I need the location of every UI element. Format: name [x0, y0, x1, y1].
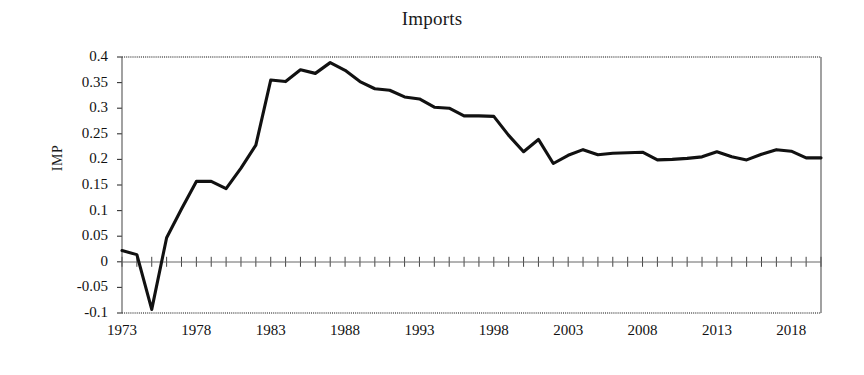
y-axis-ticks — [117, 57, 122, 313]
chart-figure: Imports IMP 0.40.350.30.250.20.150.10.05… — [0, 0, 864, 375]
plot-area — [0, 0, 864, 375]
